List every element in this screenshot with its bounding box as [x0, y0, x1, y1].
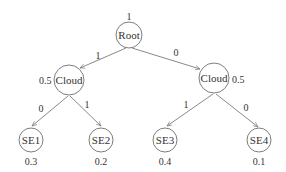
- edge-cloud-left-to-se1: [32, 96, 68, 126]
- node-se4: SE4: [247, 128, 271, 152]
- node-se3: SE3: [153, 128, 177, 152]
- node-root-label: Root: [118, 29, 139, 41]
- edge-label-cloud-left-se2: 1: [85, 99, 90, 110]
- edge-label-cloud-right-se3: 1: [184, 99, 189, 110]
- node-se4-value: 0.1: [253, 156, 266, 167]
- node-se1-label: SE1: [22, 134, 40, 146]
- tree-diagram: 1 0 0 1 1 0 Root 1 Cloud 0.5 Cloud 0.5 S…: [0, 0, 286, 172]
- node-cloud-right-value: 0.5: [232, 74, 245, 85]
- edge-label-cloud-left-se1: 0: [39, 103, 44, 114]
- node-se4-label: SE4: [250, 134, 269, 146]
- node-root: Root: [116, 22, 142, 48]
- node-se1-value: 0.3: [25, 156, 38, 167]
- edge-cloud-right-to-se3: [167, 94, 213, 126]
- edge-label-cloud-right-se4: 0: [244, 102, 249, 113]
- node-se2-label: SE2: [92, 134, 110, 146]
- node-cloud-left: Cloud: [54, 65, 84, 95]
- node-se2-value: 0.2: [95, 156, 108, 167]
- edge-label-root-cloud-left: 1: [96, 50, 101, 61]
- node-se1: SE1: [19, 128, 43, 152]
- edge-root-to-cloud-left: [80, 48, 126, 68]
- node-root-value: 1: [127, 11, 132, 22]
- edge-root-to-cloud-right: [132, 48, 200, 69]
- edge-label-root-cloud-right: 0: [174, 47, 179, 58]
- node-cloud-right-label: Cloud: [201, 72, 228, 84]
- node-se2: SE2: [89, 128, 113, 152]
- edge-cloud-right-to-se4: [216, 94, 258, 127]
- node-cloud-left-label: Cloud: [56, 74, 83, 86]
- node-cloud-left-value: 0.5: [39, 75, 52, 86]
- node-se3-label: SE3: [156, 134, 175, 146]
- node-se3-value: 0.4: [159, 156, 172, 167]
- node-cloud-right: Cloud: [199, 63, 229, 93]
